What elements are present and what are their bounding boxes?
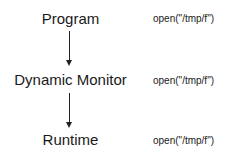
call-runtime: open("/tmp/f") xyxy=(153,135,214,147)
call-program: open("/tmp/f") xyxy=(153,13,214,25)
call-dynamic-monitor: open("/tmp/f") xyxy=(153,75,214,87)
node-runtime: Runtime xyxy=(0,131,141,149)
node-program: Program xyxy=(0,10,141,28)
node-dynamic-monitor: Dynamic Monitor xyxy=(0,71,141,89)
